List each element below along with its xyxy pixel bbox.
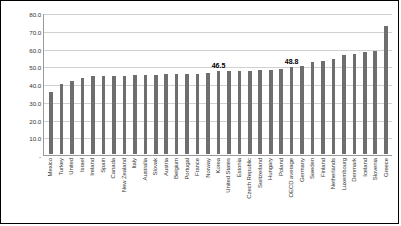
bar-column [328, 14, 338, 154]
bar-column [77, 14, 87, 154]
x-tick-label: Norway [205, 158, 211, 178]
x-tick-label: Germany [299, 158, 305, 182]
bar-column [307, 14, 317, 154]
x-label-column: Italy [129, 157, 139, 225]
bar [185, 74, 189, 154]
x-label-column: Poland [276, 157, 286, 225]
bar-column [381, 14, 391, 154]
bar [258, 70, 262, 154]
bar [196, 74, 200, 154]
x-tick-label: Australia [142, 158, 148, 180]
x-tick-label: Mexico [47, 158, 53, 176]
x-tick-label: Czech Republic [246, 158, 252, 199]
bar [49, 92, 53, 154]
x-label-column: Korea [213, 157, 223, 225]
bar-column [46, 14, 56, 154]
bar [102, 76, 106, 154]
x-tick-label: Finland [320, 158, 326, 177]
bar [154, 75, 158, 154]
x-label-column: Norway [202, 157, 212, 225]
x-tick-label: Austria [163, 158, 169, 176]
bar-column [88, 14, 98, 154]
x-label-column: Slovenia [370, 157, 380, 225]
x-tick-label: Switzerland [257, 158, 263, 188]
x-label-column: France [192, 157, 202, 225]
bar [248, 71, 252, 154]
bar-column [276, 14, 286, 154]
y-tick-label: 50.0 [1, 64, 41, 71]
bar [133, 75, 137, 154]
bar-column [151, 14, 161, 154]
y-tick-label: 20.0 [1, 117, 41, 124]
x-label-column: Hungary [265, 157, 275, 225]
x-tick-label: Italy [131, 158, 137, 169]
x-tick-label: United States [225, 158, 231, 193]
x-tick-label: Belgium [173, 158, 179, 179]
x-label-column: United States [223, 157, 233, 225]
x-label-column: Sweden [307, 157, 317, 225]
bar [384, 26, 388, 154]
y-tick-label: 80.0 [1, 11, 41, 18]
bar-column [67, 14, 77, 154]
x-tick-label: Luxembourg [341, 158, 347, 190]
bar-column [360, 14, 370, 154]
x-label-column: Israel [76, 157, 86, 225]
bar [60, 84, 64, 154]
bar-column: 48.8 [286, 14, 296, 154]
bar [373, 51, 377, 154]
bar-column [224, 14, 234, 154]
bar [238, 71, 242, 154]
bar-column [119, 14, 129, 154]
x-label-column: Greece [381, 157, 391, 225]
bar-column [255, 14, 265, 154]
bar [175, 74, 179, 154]
bar-column [203, 14, 213, 154]
bar-column [171, 14, 181, 154]
x-tick-label: Poland [278, 158, 284, 176]
bar-column [234, 14, 244, 154]
bar [144, 75, 148, 154]
x-label-column: Portugal [181, 157, 191, 225]
bar-column: 46.5 [213, 14, 223, 154]
bar [342, 55, 346, 154]
bar-column [130, 14, 140, 154]
x-axis-tick-labels: MexicoTurkeyUnitedIsraelIrelandSpainCana… [44, 157, 392, 225]
x-label-column: Slovak [150, 157, 160, 225]
bar-column [370, 14, 380, 154]
y-tick-label: 60.0 [1, 46, 41, 53]
bar [290, 67, 294, 154]
bar-column [161, 14, 171, 154]
bar [321, 61, 325, 154]
bar [311, 62, 315, 154]
x-tick-label: Hungary [267, 158, 273, 180]
x-label-column: Switzerland [255, 157, 265, 225]
bar [81, 78, 85, 154]
bar [91, 76, 95, 154]
bar [227, 71, 231, 154]
bar [269, 70, 273, 154]
x-tick-label: Iceland [362, 158, 368, 177]
x-label-column: Germany [297, 157, 307, 225]
bar [279, 69, 283, 154]
x-tick-label: Slovak [152, 158, 158, 175]
bar [353, 54, 357, 154]
bar [164, 74, 168, 154]
y-tick-label: 70.0 [1, 28, 41, 35]
x-tick-label: Turkey [58, 158, 64, 176]
bar-column [297, 14, 307, 154]
x-tick-label: Netherlands [330, 158, 336, 189]
x-label-column: Finland [318, 157, 328, 225]
bar [123, 76, 127, 154]
x-label-column: Belgium [171, 157, 181, 225]
bar-column [339, 14, 349, 154]
x-tick-label: Ireland [89, 158, 95, 176]
y-tick-label: 40.0 [1, 82, 41, 89]
x-label-column: Denmark [349, 157, 359, 225]
x-tick-label: New Zealand [121, 158, 127, 192]
plot-area: 46.548.8 [43, 14, 392, 156]
x-tick-label: OECD average [288, 158, 294, 198]
x-label-column: OECD average [286, 157, 296, 225]
x-label-column: Netherlands [328, 157, 338, 225]
x-label-column: Ireland [87, 157, 97, 225]
bar-column [349, 14, 359, 154]
